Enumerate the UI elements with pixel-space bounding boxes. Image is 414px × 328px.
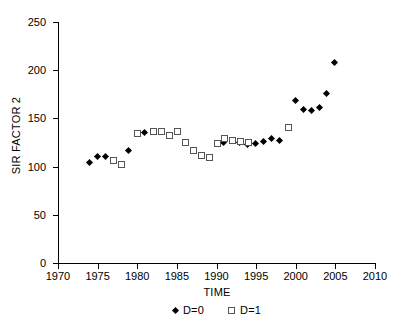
y-axis-title: SIR FACTOR 2 <box>11 76 22 196</box>
x-tick <box>296 264 297 269</box>
x-tick <box>256 264 257 269</box>
data-point <box>166 132 173 139</box>
legend-label-d0: D=0 <box>183 305 204 316</box>
x-tick-label: 1995 <box>234 271 278 282</box>
x-tick <box>177 264 178 269</box>
x-tick <box>217 264 218 269</box>
x-tick-label: 2000 <box>274 271 318 282</box>
chart-legend: D=0 D=1 <box>58 305 376 316</box>
data-point <box>198 152 205 159</box>
y-tick-label: 50 <box>0 210 46 221</box>
scatter-chart-figure: 050100150200250 197019751980198519901995… <box>0 0 414 328</box>
y-tick-label: 250 <box>0 17 46 28</box>
x-tick <box>137 264 138 269</box>
data-point <box>229 137 236 144</box>
x-tick-label: 1985 <box>155 271 199 282</box>
legend-entry-d1: D=1 <box>228 305 261 316</box>
y-tick-label: 0 <box>0 258 46 269</box>
y-tick-label: 100 <box>0 162 46 173</box>
data-point <box>206 154 213 161</box>
x-tick <box>335 264 336 269</box>
x-tick-label: 1975 <box>76 271 120 282</box>
data-point <box>182 139 189 146</box>
data-point <box>214 140 221 147</box>
data-point <box>158 128 165 135</box>
y-tick-label: 150 <box>0 113 46 124</box>
data-point <box>221 135 228 142</box>
legend-entry-d0: D=0 <box>173 305 204 316</box>
data-point <box>174 128 181 135</box>
data-point <box>110 157 117 164</box>
x-tick-label: 2005 <box>313 271 357 282</box>
open-square-icon <box>228 307 235 314</box>
data-point <box>118 161 125 168</box>
x-tick <box>98 264 99 269</box>
x-tick-label: 1970 <box>36 271 80 282</box>
data-point <box>190 147 197 154</box>
data-point <box>150 128 157 135</box>
filled-diamond-icon <box>172 307 179 314</box>
data-point <box>134 130 141 137</box>
data-point <box>237 138 244 145</box>
x-tick-label: 1990 <box>195 271 239 282</box>
x-axis-title: TIME <box>58 287 376 298</box>
x-tick-label: 1980 <box>115 271 159 282</box>
x-tick <box>375 264 376 269</box>
data-point <box>245 139 252 146</box>
x-tick <box>58 264 59 269</box>
data-point <box>285 124 292 131</box>
x-tick-label: 2010 <box>353 271 397 282</box>
y-tick-label: 200 <box>0 65 46 76</box>
legend-label-d1: D=1 <box>240 305 261 316</box>
